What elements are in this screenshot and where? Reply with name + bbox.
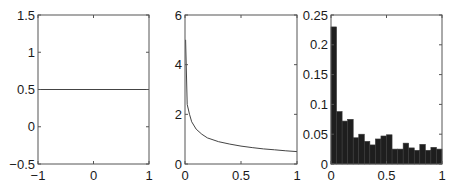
x-tick-label: 0.5 [232, 168, 250, 183]
data-line [186, 40, 297, 152]
x-tick-label: 0.5 [377, 168, 395, 183]
histogram-bar [398, 149, 404, 164]
y-tick-label: 1 [28, 45, 35, 60]
y-tick-label: 1.5 [17, 8, 35, 23]
axes-frame [185, 15, 297, 164]
y-tick-label: 0.2 [310, 37, 328, 52]
histogram-bar [337, 112, 343, 164]
figure: −101−0.500.511.5 00.510246 00.5100.050.1… [0, 0, 453, 192]
histogram-bar [387, 135, 393, 164]
y-tick-label: 0.05 [303, 127, 328, 142]
histogram-bar [425, 150, 431, 164]
histogram-bar [331, 27, 337, 164]
histogram-bar [403, 143, 409, 164]
histogram-bar [420, 144, 426, 164]
plot-histogram: 00.5100.050.10.150.20.25 [303, 8, 446, 184]
y-tick-label: 0 [175, 157, 182, 172]
histogram-bar [414, 150, 420, 164]
histogram-bar [381, 136, 387, 164]
y-tick-label: 0 [28, 119, 35, 134]
y-tick-label: 0.1 [310, 97, 328, 112]
histogram-bar [370, 145, 376, 164]
histogram-bar [359, 134, 365, 164]
x-tick-label: 1 [293, 168, 300, 183]
histogram-bar [348, 119, 354, 164]
y-tick-label: 0.15 [303, 67, 328, 82]
y-tick-label: 2 [175, 107, 182, 122]
histogram-bar [342, 121, 348, 164]
y-tick-label: 6 [175, 8, 182, 23]
histogram-bar [431, 147, 437, 164]
y-tick-label: 4 [175, 57, 182, 72]
y-tick-label: −0.5 [9, 157, 35, 172]
histogram-bar [364, 141, 370, 164]
histogram-bar [375, 139, 381, 164]
y-tick-label: 0.25 [303, 8, 328, 23]
x-tick-label: 1 [145, 168, 152, 183]
x-tick-label: 0 [90, 168, 97, 183]
histogram-bar [409, 148, 415, 164]
histogram-bar [392, 149, 398, 164]
histogram-bar [436, 149, 442, 164]
plot-constant-line: −101−0.500.511.5 [9, 8, 152, 184]
y-tick-label: 0 [321, 157, 328, 172]
plot-decay-curve: 00.510246 [175, 8, 301, 184]
y-tick-label: 0.5 [17, 82, 35, 97]
histogram-bar [353, 138, 359, 164]
x-tick-label: 0 [327, 168, 334, 183]
x-tick-label: 1 [438, 168, 445, 183]
x-tick-label: 0 [181, 168, 188, 183]
